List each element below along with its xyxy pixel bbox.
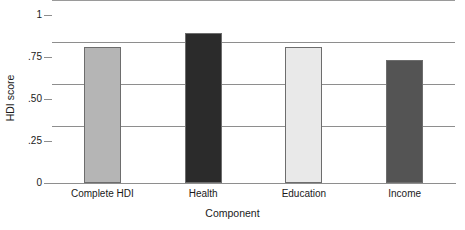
bar <box>386 60 423 183</box>
plot-area <box>52 15 455 183</box>
gridline <box>52 0 455 1</box>
y-axis-tick-label: .25 <box>0 136 42 146</box>
y-axis-tick-label: .50 <box>0 94 42 104</box>
x-axis-line <box>44 183 456 184</box>
x-axis-title: Component <box>0 207 465 219</box>
y-axis-tick-label: 0 <box>0 178 42 188</box>
x-axis-tick-label: Health <box>189 188 218 199</box>
y-axis-tick-label: .75 <box>0 52 42 62</box>
bar <box>285 47 322 183</box>
x-axis-tick-label: Income <box>388 188 421 199</box>
y-axis-tick <box>44 57 52 58</box>
x-axis-tick-label: Complete HDI <box>71 188 134 199</box>
y-axis-tick-label: 1 <box>0 10 42 20</box>
bar-chart-figure: HDI score 0.25.50.751 Complete HDIHealth… <box>0 0 465 230</box>
bar <box>84 47 121 183</box>
bar <box>185 33 222 183</box>
y-axis-tick <box>44 99 52 100</box>
y-axis-tick <box>44 141 52 142</box>
x-axis-tick-label: Education <box>282 188 326 199</box>
y-axis-tick <box>44 15 52 16</box>
y-axis-title-container: HDI score <box>0 0 18 230</box>
